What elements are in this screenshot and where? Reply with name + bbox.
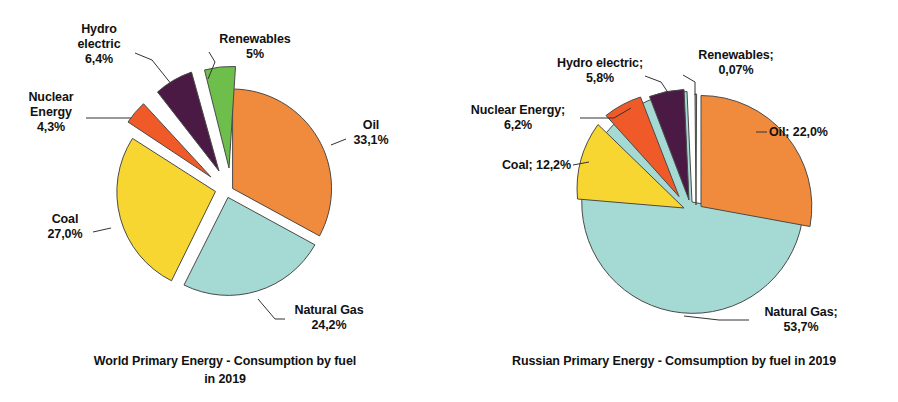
leader-line-gas <box>684 316 749 320</box>
label-natural-gas-value: 24,2% <box>282 318 376 333</box>
label-oil: Oil; 22,0% <box>769 125 859 140</box>
chart-caption-world: World Primary Energy - Consumption by fu… <box>28 352 422 388</box>
label-natural-gas-name: Natural Gas <box>282 303 376 318</box>
label-nuclear-name-line1: Nuclear <box>10 90 92 105</box>
label-oil-value: 33,1% <box>340 133 402 148</box>
chart-world-primary-energy: Hydro electric 6,4% Nuclear Energy 4,3% … <box>0 0 449 402</box>
pie-slice-oil[interactable] <box>701 96 812 227</box>
caption-line-1: Russian Primary Energy - Comsumption by … <box>459 352 889 370</box>
label-hydro-name-line2: electric <box>54 37 144 52</box>
pie-chart-russia <box>449 0 898 402</box>
label-renewables-value: 5% <box>200 47 310 62</box>
label-natural-gas-value: 53,7% <box>749 320 853 335</box>
label-renewables-name: Renewables <box>200 32 310 47</box>
label-hydro-electric: Hydro electric; 5,8% <box>537 56 663 86</box>
label-natural-gas: Natural Gas; 53,7% <box>749 305 853 335</box>
label-nuclear-name-line2: Energy <box>10 105 92 120</box>
label-hydro-value: 6,4% <box>54 52 144 67</box>
label-nuclear-energy: Nuclear Energy; 6,2% <box>457 103 579 133</box>
label-oil-name: Oil; 22,0% <box>769 125 859 140</box>
label-coal-name: Coal <box>34 212 96 227</box>
label-coal: Coal 27,0% <box>34 212 96 242</box>
label-natural-gas-name: Natural Gas; <box>749 305 853 320</box>
label-renewables-value: 0,07% <box>681 63 791 78</box>
label-renewables-name: Renewables; <box>681 48 791 63</box>
label-oil-name: Oil <box>340 118 402 133</box>
caption-line-1: World Primary Energy - Consumption by fu… <box>28 352 422 370</box>
label-oil: Oil 33,1% <box>340 118 402 148</box>
label-nuclear-energy: Nuclear Energy 4,3% <box>10 90 92 134</box>
label-hydro-name: Hydro electric; <box>537 56 663 71</box>
pie-slice-renewables[interactable] <box>695 94 697 205</box>
label-nuclear-name: Nuclear Energy; <box>457 103 579 118</box>
chart-caption-russia: Russian Primary Energy - Comsumption by … <box>459 352 889 370</box>
chart-russian-primary-energy: Hydro electric; 5,8% Nuclear Energy; 6,2… <box>449 0 898 402</box>
label-natural-gas: Natural Gas 24,2% <box>282 303 376 333</box>
label-nuclear-value: 4,3% <box>10 120 92 135</box>
label-hydro-value: 5,8% <box>537 71 663 86</box>
label-coal-value: 27,0% <box>34 227 96 242</box>
label-hydro-electric: Hydro electric 6,4% <box>54 22 144 66</box>
label-renewables: Renewables 5% <box>200 32 310 62</box>
label-nuclear-value: 6,2% <box>457 118 579 133</box>
caption-line-2: in 2019 <box>28 370 422 388</box>
label-coal-name: Coal; 12,2% <box>473 158 571 173</box>
label-renewables: Renewables; 0,07% <box>681 48 791 78</box>
leader-line-gas <box>258 299 285 319</box>
label-hydro-name-line1: Hydro <box>54 22 144 37</box>
label-coal: Coal; 12,2% <box>473 158 571 173</box>
